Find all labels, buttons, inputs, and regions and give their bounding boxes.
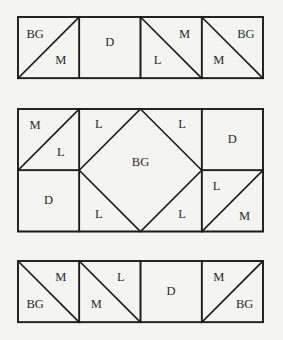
unit-square: D [202, 109, 263, 170]
section-top-row: BGMDMLBGM [18, 17, 263, 78]
fabric-label-l: L [95, 117, 103, 131]
unit-hst: MBG [202, 261, 263, 322]
unit-square: D [18, 170, 79, 231]
fabric-label-bg: BG [237, 27, 254, 41]
diagonal-seam [202, 17, 263, 78]
fabric-label-m: M [213, 270, 224, 284]
diagonal-seam [79, 261, 140, 322]
unit-square-in-square: LLBGLL [79, 109, 202, 232]
unit-hst: MBG [18, 261, 79, 322]
diagram-svg: BGMDMLBGMMLDLLBGLLDLMMBGLMDMBG [0, 0, 283, 340]
diagonal-seam [18, 109, 79, 170]
unit-hst: ML [141, 17, 202, 78]
fabric-label-m: M [55, 53, 66, 67]
fabric-label-l: L [178, 117, 186, 131]
unit-hst: LM [79, 261, 140, 322]
fabric-label-l: L [213, 179, 221, 193]
diagonal-seam [18, 17, 79, 78]
diagonal-seam [202, 261, 263, 322]
quilt-block-diagram: BGMDMLBGMMLDLLBGLLDLMMBGLMDMBG [0, 0, 283, 340]
fabric-label-m: M [91, 297, 102, 311]
fabric-label-l: L [95, 207, 103, 221]
fabric-label-bg: BG [26, 297, 43, 311]
fabric-label-m: M [239, 209, 250, 223]
fabric-label-l: L [178, 207, 186, 221]
fabric-label-m: M [30, 118, 41, 132]
unit-hst: ML [18, 109, 79, 170]
fabric-label-bg: BG [132, 155, 149, 169]
unit-square: D [79, 17, 140, 78]
fabric-label-l: L [117, 270, 125, 284]
fabric-label-l: L [57, 145, 65, 159]
diagonal-seam [18, 261, 79, 322]
fabric-label-d: D [105, 35, 114, 49]
section-bottom-row: MBGLMDMBG [18, 261, 263, 322]
fabric-label-m: M [213, 53, 224, 67]
fabric-label-bg: BG [26, 27, 43, 41]
fabric-label-d: D [228, 132, 237, 146]
fabric-label-l: L [154, 53, 162, 67]
diagonal-seam [141, 17, 202, 78]
diagonal-seam [202, 170, 263, 231]
section-middle-row: MLDLLBGLLDLM [18, 109, 263, 232]
fabric-label-d: D [167, 284, 176, 298]
fabric-label-m: M [55, 270, 66, 284]
fabric-label-d: D [44, 193, 53, 207]
unit-hst: BGM [18, 17, 79, 78]
unit-square: D [141, 261, 202, 322]
unit-hst: LM [202, 170, 263, 231]
unit-hst: BGM [202, 17, 263, 78]
fabric-label-bg: BG [236, 297, 253, 311]
fabric-label-m: M [179, 27, 190, 41]
